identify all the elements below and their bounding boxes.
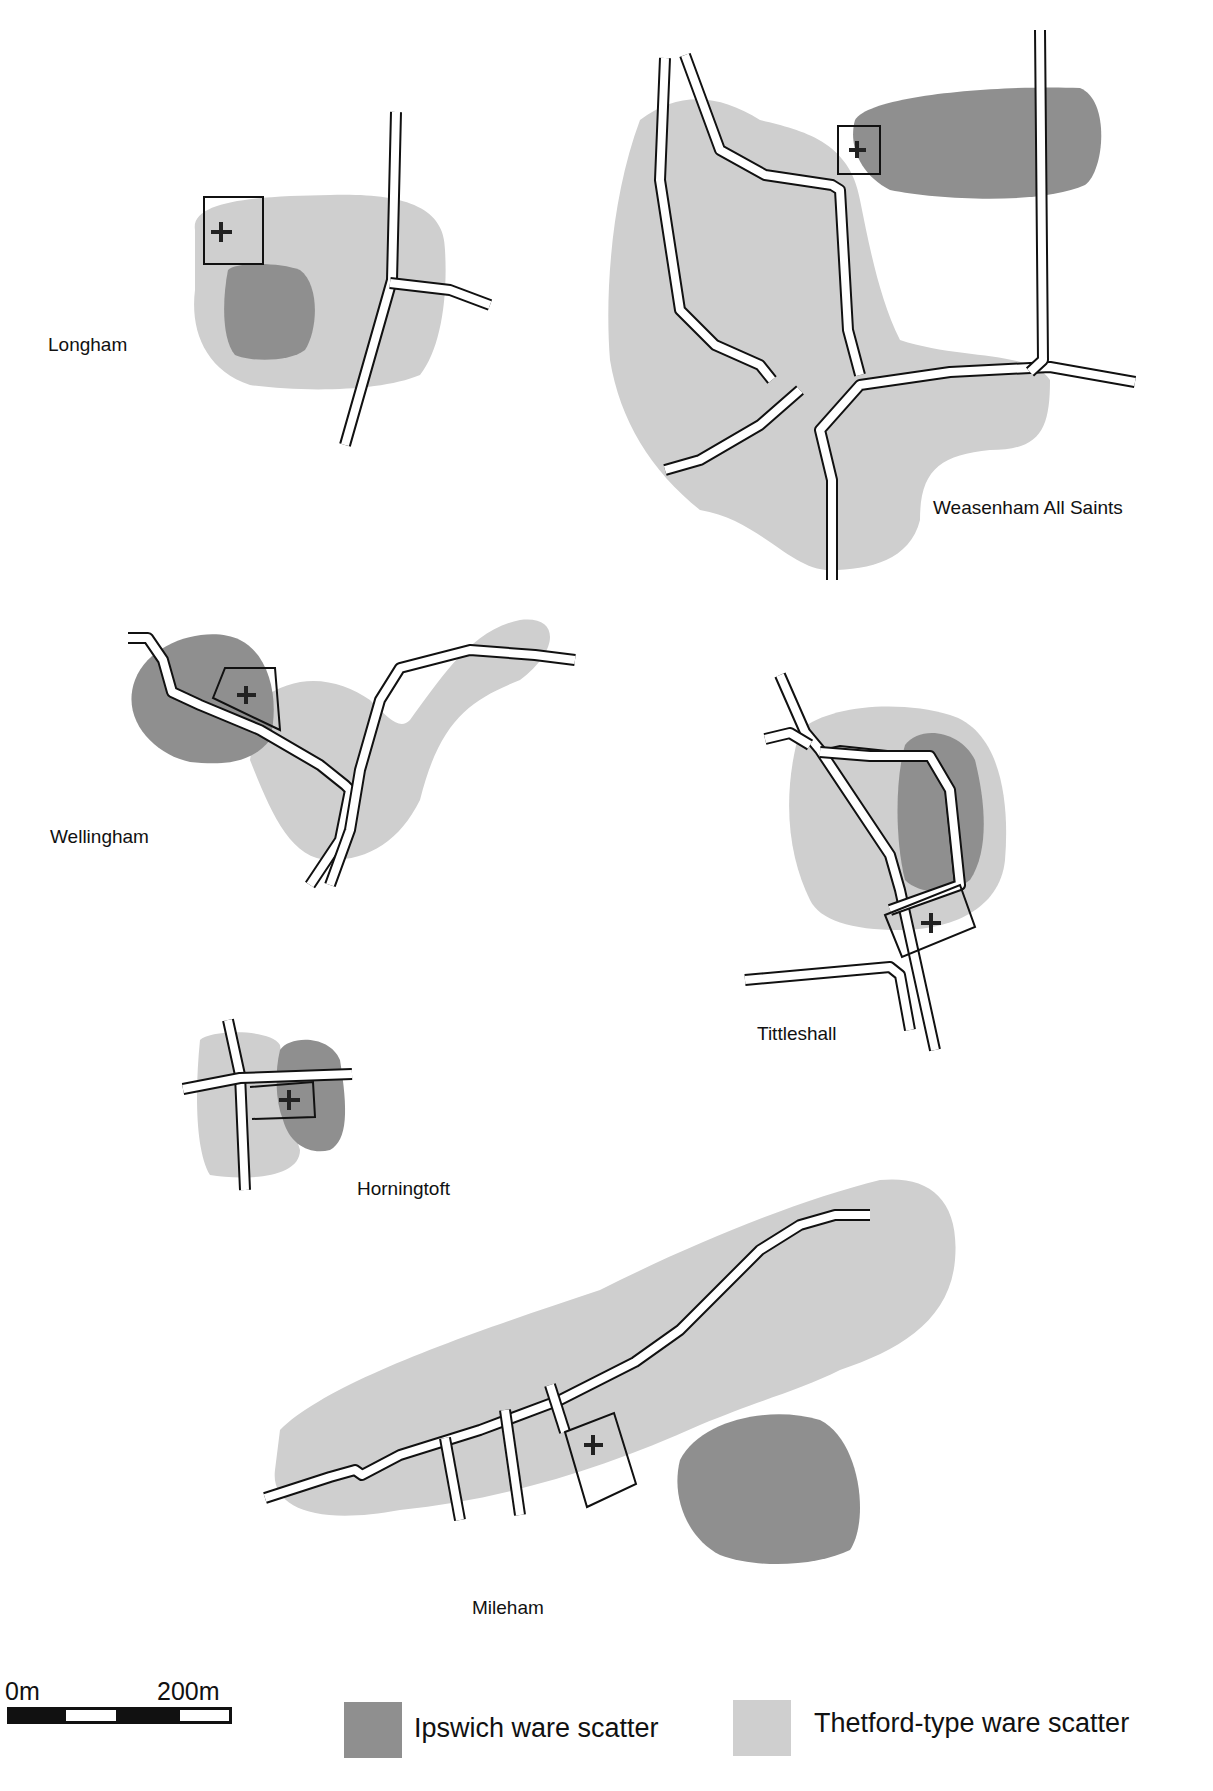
- site-wellingham: [128, 620, 575, 885]
- site-label-mileham: Mileham: [472, 1597, 544, 1619]
- site-label-tittleshall: Tittleshall: [757, 1023, 837, 1045]
- legend-swatch-ipswich: [344, 1702, 402, 1758]
- scale-bar: [7, 1707, 232, 1724]
- legend-label-thetford: Thetford-type ware scatter: [814, 1708, 1129, 1739]
- scale-start-label: 0m: [5, 1677, 40, 1706]
- site-label-weasenham: Weasenham All Saints: [933, 497, 1123, 519]
- site-label-wellingham: Wellingham: [50, 826, 149, 848]
- site-label-horningtoft: Horningtoft: [357, 1178, 450, 1200]
- site-longham: [194, 112, 490, 445]
- site-label-longham: Longham: [48, 334, 127, 356]
- ipswich-scatter-weasenham: [853, 87, 1101, 198]
- site-tittleshall: [745, 675, 1006, 1050]
- map-canvas: .ips { fill:#8f8f8f; } .thet { fill:#cfc…: [0, 0, 1213, 1791]
- ipswich-scatter-longham: [224, 264, 315, 360]
- site-horningtoft: [183, 1020, 352, 1190]
- site-mileham: [265, 1179, 956, 1564]
- ipswich-scatter-mileham: [677, 1414, 860, 1564]
- scale-end-label: 200m: [157, 1677, 220, 1706]
- legend-swatch-thetford: [733, 1700, 791, 1756]
- legend-label-ipswich: Ipswich ware scatter: [414, 1713, 659, 1744]
